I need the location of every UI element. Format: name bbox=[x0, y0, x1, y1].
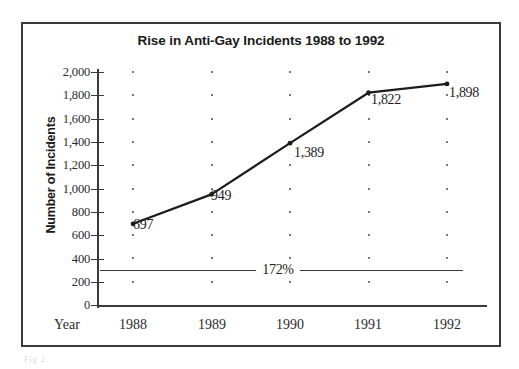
data-series-line bbox=[0, 0, 519, 369]
data-point-label-1988: 697 bbox=[133, 217, 153, 233]
data-point-label-1991: 1,822 bbox=[371, 92, 401, 108]
page-artifact-text: Fig 2 bbox=[24, 355, 46, 364]
x-axis-title: Year bbox=[38, 317, 96, 333]
data-point-label-1990: 1,389 bbox=[294, 145, 324, 161]
x-tick-label-1989: 1989 bbox=[177, 317, 247, 333]
x-tick-label-1988: 1988 bbox=[98, 317, 168, 333]
data-point-label-1989: 949 bbox=[211, 188, 231, 204]
data-point-label-1992: 1,898 bbox=[449, 85, 479, 101]
data-point-marker bbox=[288, 141, 293, 146]
x-tick-label-1991: 1991 bbox=[333, 317, 403, 333]
x-tick-label-1990: 1990 bbox=[255, 317, 325, 333]
x-tick-label-1992: 1992 bbox=[412, 317, 482, 333]
chart-figure: Rise in Anti-Gay Incidents 1988 to 1992 … bbox=[0, 0, 519, 369]
